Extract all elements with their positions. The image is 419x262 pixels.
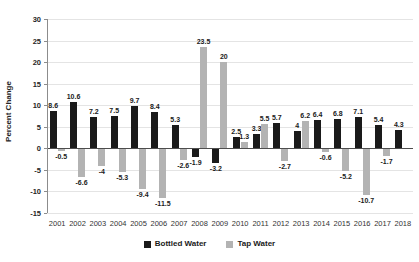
bottled-water-bar-2007: [172, 125, 179, 148]
legend-item-tap-water: Tap Water: [226, 240, 275, 248]
bottled-water-bar-2005: [131, 106, 138, 148]
y-axis-line: [47, 19, 48, 213]
value-label: 3.3: [252, 125, 262, 132]
tap-water-bar-2004: [119, 149, 126, 172]
value-label: -5.3: [116, 174, 128, 181]
value-label: 7.2: [89, 108, 99, 115]
tap-water-bar-2009: [220, 62, 227, 148]
value-label: -10.7: [358, 197, 374, 204]
value-label: 9.7: [130, 97, 140, 104]
tap-water-bar-2011: [261, 124, 268, 148]
y-tick-mark: [44, 213, 47, 214]
y-tick-label: 15: [21, 79, 41, 88]
tap-water-swatch: [226, 241, 233, 248]
value-label: 8.4: [150, 103, 160, 110]
value-label: 4: [295, 122, 299, 129]
value-label: -6.6: [75, 179, 87, 186]
bottled-water-bar-2002: [70, 102, 77, 148]
bottled-water-bar-2013: [294, 131, 301, 148]
value-label: -2.7: [279, 163, 291, 170]
bottled-water-bar-2009: [212, 149, 219, 163]
legend: Bottled Water Tap Water: [0, 240, 419, 248]
x-tick-label: 2002: [69, 220, 86, 228]
value-label: -11.5: [155, 200, 171, 207]
x-tick-label: 2014: [313, 220, 330, 228]
value-label: 5.7: [272, 114, 282, 121]
bottled-water-bar-2014: [314, 120, 321, 148]
bottled-water-bar-2003: [90, 117, 97, 148]
value-label: -5.2: [340, 173, 352, 180]
x-tick-label: 2016: [354, 220, 371, 228]
value-label: 7.1: [353, 108, 363, 115]
x-tick-label: 2018: [394, 220, 411, 228]
x-tick-label: 2007: [171, 220, 188, 228]
bottled-water-bar-2016: [355, 117, 362, 148]
tap-water-bar-2012: [281, 149, 288, 161]
gridline: [47, 62, 413, 63]
value-label: -9.4: [136, 191, 148, 198]
value-label: 23.5: [197, 38, 211, 45]
x-tick-label: 2015: [333, 220, 350, 228]
x-tick-label: 2012: [272, 220, 289, 228]
y-axis-title: Percent Change: [4, 77, 13, 147]
tap-water-bar-2001: [58, 149, 65, 151]
legend-label: Bottled Water: [155, 240, 207, 248]
value-label: 20: [220, 53, 228, 60]
legend-label: Tap Water: [237, 240, 275, 248]
gridline: [47, 213, 413, 214]
x-tick-label: 2006: [150, 220, 167, 228]
value-label: 10.6: [67, 93, 81, 100]
y-tick-label: -5: [21, 165, 41, 174]
bottled-water-bar-2017: [375, 125, 382, 148]
gridline: [47, 191, 413, 192]
tap-water-bar-2013: [302, 121, 309, 148]
value-label: 4.3: [394, 121, 404, 128]
x-tick-label: 2009: [211, 220, 228, 228]
value-label: 1.3: [239, 133, 249, 140]
value-label: 5.5: [260, 115, 270, 122]
tap-water-bar-2014: [322, 149, 329, 152]
gridline: [47, 84, 413, 85]
value-label: -1.9: [189, 159, 201, 166]
tap-water-bar-2006: [159, 149, 166, 198]
value-label: -2.6: [177, 162, 189, 169]
tap-water-bar-2017: [383, 149, 390, 156]
bottled-water-swatch: [144, 241, 151, 248]
bottled-water-bar-2011: [253, 134, 260, 148]
bottled-water-bar-2008: [192, 149, 199, 157]
y-tick-label: -10: [21, 187, 41, 196]
bar-chart: Percent Change Bottled Water Tap Water 3…: [0, 0, 419, 262]
value-label: -1.7: [380, 158, 392, 165]
bottled-water-bar-2012: [273, 123, 280, 148]
gridline: [47, 41, 413, 42]
legend-item-bottled-water: Bottled Water: [144, 240, 207, 248]
x-tick-label: 2001: [49, 220, 66, 228]
y-tick-label: 20: [21, 58, 41, 67]
tap-water-bar-2002: [78, 149, 85, 177]
value-label: 6.2: [300, 112, 310, 119]
tap-water-bar-2016: [363, 149, 370, 195]
tap-water-bar-2010: [241, 142, 248, 148]
bottled-water-bar-2004: [111, 116, 118, 148]
value-label: -3.2: [210, 165, 222, 172]
x-tick-label: 2003: [89, 220, 106, 228]
value-label: -4: [99, 168, 105, 175]
value-label: 6.8: [333, 110, 343, 117]
value-label: 7.5: [109, 107, 119, 114]
gridline: [47, 19, 413, 20]
tap-water-bar-2003: [98, 149, 105, 166]
bottled-water-bar-2006: [151, 112, 158, 148]
gridline: [47, 105, 413, 106]
value-label: -0.6: [319, 154, 331, 161]
x-tick-label: 2005: [130, 220, 147, 228]
value-label: 5.4: [374, 116, 384, 123]
x-tick-label: 2011: [252, 220, 268, 228]
y-tick-label: 25: [21, 36, 41, 45]
value-label: 6.4: [313, 111, 323, 118]
value-label: -0.5: [55, 153, 67, 160]
bottled-water-bar-2018: [395, 130, 402, 148]
tap-water-bar-2008: [200, 47, 207, 148]
y-tick-label: 5: [21, 122, 41, 131]
y-tick-label: -15: [21, 208, 41, 217]
x-tick-label: 2013: [293, 220, 310, 228]
